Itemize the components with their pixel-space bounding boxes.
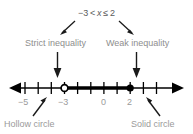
weak-inequality-label: Weak inequality [106, 38, 169, 48]
open-endpoint-hollow-circle [61, 85, 68, 92]
number-line-diagram [0, 0, 193, 134]
strict-inequality-label: Strict inequality [25, 38, 86, 48]
hollow-circle-caption: Hollow circle [4, 119, 55, 129]
tick-label-zero: 0 [101, 97, 106, 107]
expression-upper-bound: 2 [110, 8, 115, 18]
tick-label-two: 2 [127, 97, 132, 107]
closed-endpoint-solid-circle [127, 84, 134, 91]
tick-label-neg3: −3 [58, 97, 68, 107]
inequality-expression: −3 < x ≤ 2 [78, 8, 115, 18]
tick-label-neg5: −5 [18, 97, 28, 107]
diagram-background [0, 0, 193, 134]
expression-lower-bound: −3 [78, 8, 88, 18]
solid-circle-caption: Solid circle [131, 119, 175, 129]
